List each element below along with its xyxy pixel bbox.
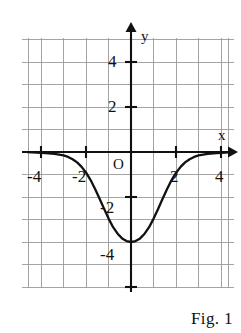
y-tick-label-neg2: -2 — [100, 199, 114, 216]
x-tick-label-pos2: 2 — [170, 168, 179, 185]
y-tick-label-pos4: 4 — [108, 53, 117, 70]
y-tick-label-neg4: -4 — [100, 246, 114, 263]
x-tick-label-pos4: 4 — [215, 168, 224, 185]
x-axis-label: x — [218, 128, 226, 143]
origin-label: O — [113, 157, 124, 172]
figure-caption: Fig. 1 — [191, 309, 233, 329]
y-axis-label: y — [141, 29, 149, 44]
x-tick-label-neg2: -2 — [72, 168, 86, 185]
figure-container: -4 -2 2 4 4 2 -2 -4 y x O Fig. 1 — [0, 0, 241, 333]
grid-horizontal-lines — [22, 40, 234, 288]
grid-vertical-lines — [29, 38, 229, 288]
y-tick-label-pos2: 2 — [108, 98, 117, 115]
x-tick-label-neg4: -4 — [27, 168, 41, 185]
